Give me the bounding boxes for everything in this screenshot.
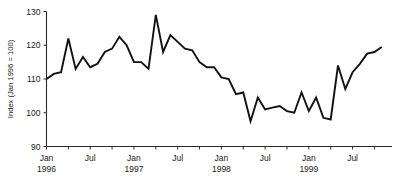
x-tick-label-month: Jul	[172, 153, 183, 163]
x-tick-label-year: 1999	[299, 164, 318, 174]
y-axis-title: Index (Jan 1996 = 100)	[6, 39, 15, 118]
x-tick-label-month: Jul	[85, 153, 96, 163]
y-tick-label: 110	[27, 74, 41, 84]
data-series-line	[47, 15, 382, 121]
y-tick-labels: 90100110120130	[26, 7, 40, 152]
x-tick-label-month: Jan	[127, 153, 141, 163]
x-tick-label-year: 1996	[37, 164, 56, 174]
x-tick-label-year: 1997	[124, 164, 143, 174]
x-tick-label-year: 1998	[212, 164, 231, 174]
x-tick-labels: Jan1996JulJan1997JulJan1998JulJan1999Jul	[37, 153, 358, 174]
x-tick-label-month: Jan	[40, 153, 54, 163]
chart-container: 90100110120130 Jan1996JulJan1997JulJan19…	[0, 0, 396, 187]
y-tick-label: 90	[31, 142, 41, 152]
x-tick-label-month: Jul	[347, 153, 358, 163]
x-tick-label-month: Jul	[260, 153, 271, 163]
y-tick-label: 120	[26, 40, 40, 50]
y-tick-label: 130	[26, 7, 40, 17]
x-tick-label-month: Jan	[302, 153, 316, 163]
x-tick-label-month: Jan	[215, 153, 229, 163]
y-tick-label: 100	[26, 108, 40, 118]
line-chart: 90100110120130 Jan1996JulJan1997JulJan19…	[0, 0, 396, 187]
